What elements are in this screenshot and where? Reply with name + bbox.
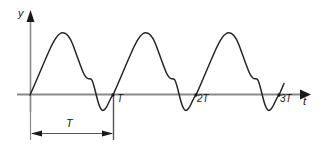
waveform-figure: y t T 2T 3T T	[0, 0, 327, 150]
tick-label-2T: 2T	[197, 94, 209, 104]
arrow-left-icon	[31, 131, 42, 137]
waveform-plot	[0, 0, 327, 150]
period-dimension-label: T	[66, 118, 73, 129]
y-axis-label: y	[18, 8, 24, 19]
tick-label-3T: 3T	[280, 94, 292, 104]
arrow-up-icon	[27, 10, 35, 22]
t-axis	[17, 90, 311, 100]
waveform-path	[30, 33, 284, 111]
arrow-right-icon	[102, 131, 113, 137]
t-axis-label: t	[303, 96, 306, 107]
waveform-curve	[30, 33, 284, 111]
tick-label-T: T	[117, 94, 123, 104]
